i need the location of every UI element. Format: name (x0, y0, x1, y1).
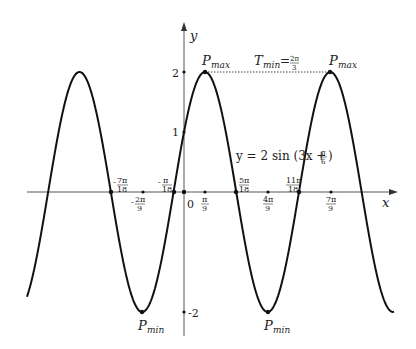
equation-label: y = 2 sin (3x + π 6 ) (235, 149, 333, 166)
svg-text:π: π (321, 149, 326, 157)
svg-text:9: 9 (137, 204, 142, 213)
svg-text:=: = (280, 54, 290, 68)
y-axis-arrow-icon (181, 22, 187, 31)
y-tick-1: 1 (172, 126, 179, 139)
origin-label: 0 (187, 198, 194, 211)
svg-text:4π: 4π (263, 195, 273, 204)
svg-text:P: P (328, 53, 338, 68)
svg-text:-: - (113, 178, 116, 187)
tick-4pi9: 4π 9 (263, 195, 273, 213)
svg-text:9: 9 (265, 204, 270, 213)
svg-text:2π: 2π (135, 195, 145, 204)
svg-text:18: 18 (162, 185, 172, 194)
svg-text:max: max (338, 60, 357, 70)
pmin-left-label: P min (137, 318, 164, 335)
svg-text:P: P (137, 318, 147, 333)
svg-text:2π: 2π (290, 55, 299, 63)
svg-text:-: - (131, 198, 134, 207)
y-axis-label: y (189, 28, 198, 43)
svg-text:7π: 7π (117, 176, 127, 185)
svg-text:min: min (273, 325, 290, 335)
svg-text:9: 9 (202, 204, 207, 213)
svg-text:P: P (263, 318, 273, 333)
y-tick-2: 2 (172, 67, 179, 80)
svg-text:max: max (211, 60, 230, 70)
svg-text:7π: 7π (326, 195, 336, 204)
pmax-left-label: P max (201, 53, 230, 70)
svg-text:min: min (147, 325, 164, 335)
x-axis-label: x (382, 195, 390, 210)
svg-text:π: π (163, 176, 168, 185)
svg-text:π: π (202, 195, 207, 204)
svg-text:18: 18 (117, 185, 127, 194)
x-axis-arrow-icon (389, 189, 398, 195)
pmax-right-label: P max (328, 53, 357, 70)
svg-text:min: min (263, 60, 280, 70)
tick-5pi18: 5π 18 (239, 176, 249, 194)
sine-graph: y x 2 1 -2 0 - 7π 18 - 2π 9 - π 18 π 9 5… (0, 0, 416, 349)
tick-m2pi9: - 2π 9 (131, 195, 145, 213)
svg-text:6: 6 (321, 158, 326, 166)
svg-text:5π: 5π (239, 176, 249, 185)
tick-m7pi18: - 7π 18 (113, 176, 128, 194)
svg-text:11π: 11π (286, 176, 301, 185)
svg-text:18: 18 (288, 185, 298, 194)
svg-text:3: 3 (292, 64, 296, 72)
svg-text:9: 9 (328, 204, 333, 213)
tick-mpi18: - π 18 (158, 176, 172, 194)
svg-text:y = 2 sin (3x +: y = 2 sin (3x + (235, 149, 330, 163)
tick-7pi9: 7π 9 (326, 195, 336, 213)
svg-text:18: 18 (239, 185, 249, 194)
svg-text:-: - (158, 178, 161, 187)
period-label: T min = 2π 3 (254, 53, 299, 72)
svg-text:P: P (201, 53, 211, 68)
y-tick-neg2: -2 (188, 307, 199, 320)
tick-pi9: π 9 (201, 195, 209, 213)
svg-text:): ) (328, 149, 333, 163)
pmin-right-label: P min (263, 318, 290, 335)
